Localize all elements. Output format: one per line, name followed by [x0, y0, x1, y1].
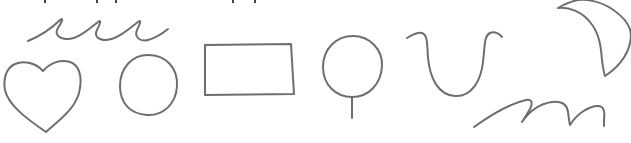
wave-scribble	[28, 19, 168, 41]
m-scribble	[474, 100, 604, 127]
heart	[4, 61, 80, 132]
rectangle	[205, 44, 294, 95]
circle	[120, 55, 177, 115]
lollipop-head	[323, 36, 382, 97]
u-curve	[407, 32, 502, 96]
sketch-canvas	[0, 0, 631, 143]
crescent	[558, 0, 631, 76]
